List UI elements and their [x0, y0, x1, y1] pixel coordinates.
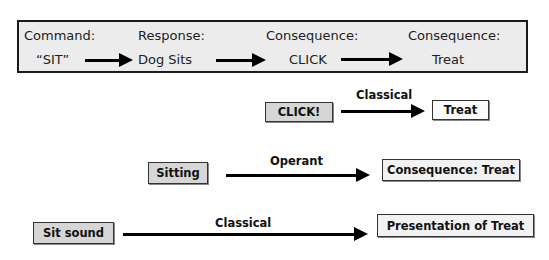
- response-header: Response:: [138, 28, 205, 43]
- operant-label: Operant: [270, 154, 323, 168]
- response-value: Dog Sits: [138, 52, 192, 67]
- click-box: CLICK!: [265, 102, 333, 122]
- classical-label-1: Classical: [356, 88, 412, 102]
- treat-box: Treat: [432, 100, 489, 120]
- command-value: “SIT”: [36, 52, 69, 67]
- classical-label-2: Classical: [215, 216, 271, 230]
- consequence-header-2: Consequence:: [408, 28, 500, 43]
- consequence-value-1: CLICK: [289, 52, 327, 67]
- consequence-treat-box: Consequence: Treat: [382, 159, 520, 181]
- presentation-of-treat-box: Presentation of Treat: [377, 214, 534, 237]
- sitting-box: Sitting: [148, 162, 208, 184]
- consequence-value-2: Treat: [432, 52, 464, 67]
- sit-sound-box: Sit sound: [33, 222, 114, 244]
- consequence-header-1: Consequence:: [266, 28, 358, 43]
- command-header: Command:: [24, 28, 95, 43]
